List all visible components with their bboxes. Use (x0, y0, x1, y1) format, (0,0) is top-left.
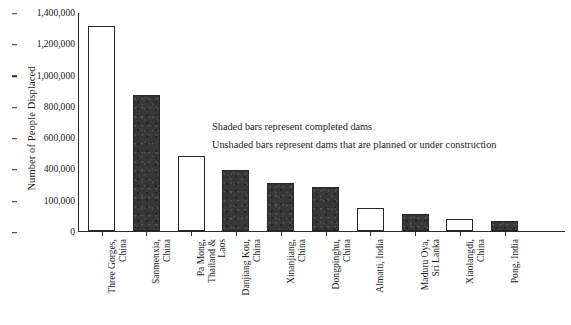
x-axis-label: Xinanjiang, China (286, 239, 307, 323)
bar-chart: Number of People Displaced 1,400,0001,20… (0, 0, 571, 325)
x-axis-label: Dongpinghu, China (331, 239, 352, 323)
x-axis-label: Sanmenxia, China (151, 239, 172, 323)
bar (178, 156, 205, 231)
x-axis-tick-mark (326, 232, 327, 236)
y-axis-tick-mark (12, 138, 17, 139)
bar (133, 95, 160, 231)
bar (357, 208, 384, 231)
y-axis-tick-label: 800,000 (15, 102, 75, 112)
bar (312, 187, 339, 231)
x-axis-label: Three Gorges, China (107, 239, 128, 323)
x-axis-tick-mark (236, 232, 237, 236)
x-axis-tick-mark (415, 232, 416, 236)
x-axis-tick-mark (505, 232, 506, 236)
bar (222, 170, 249, 231)
x-axis-label: Almatti, India (375, 239, 386, 323)
y-axis-tick-label: 1,400,000 (15, 8, 75, 18)
x-axis-label: Pong, India (510, 239, 521, 323)
y-axis-tick-label: 0 (15, 227, 75, 237)
bar (491, 221, 518, 231)
x-axis-label: Pa Mong, Thailand & Laos (196, 239, 228, 323)
y-axis-tick-label: 600,000 (15, 133, 75, 143)
y-axis-tick-mark (12, 107, 17, 108)
y-axis-tick-mark (12, 76, 17, 77)
y-axis-tick-label: 1,200,000 (15, 39, 75, 49)
x-axis-label: Maduru Oya, Sri Lanka (420, 239, 441, 323)
y-axis-tick-mark (12, 44, 17, 45)
x-axis-tick-mark (146, 232, 147, 236)
x-axis-label: Danjiang Kou, China (241, 239, 262, 323)
bar (446, 219, 473, 232)
x-axis-tick-mark (281, 232, 282, 236)
y-axis-line (78, 13, 79, 232)
chart-annotations: Shaded bars represent completed dams Uns… (212, 118, 497, 154)
y-axis-tick-mark (12, 201, 17, 202)
x-axis-tick-mark (370, 232, 371, 236)
y-axis-tick-label: 400,000 (15, 165, 75, 175)
bar (402, 214, 429, 231)
x-axis-label: Xiaolangdi, China (465, 239, 486, 323)
x-axis-tick-mark (460, 232, 461, 236)
annotation-shaded: Shaded bars represent completed dams (212, 118, 497, 136)
y-axis-tick-label: 1,000,000 (15, 71, 75, 81)
annotation-unshaded: Unshaded bars represent dams that are pl… (212, 136, 497, 154)
y-axis-tick-label: 100,000 (15, 196, 75, 206)
bar (88, 26, 115, 231)
bar (267, 183, 294, 231)
y-axis-tick-mark (12, 169, 17, 170)
y-axis-tick-mark (12, 13, 17, 14)
x-axis-tick-mark (102, 232, 103, 236)
y-axis-tick-mark (12, 232, 17, 233)
x-axis-tick-mark (191, 232, 192, 236)
